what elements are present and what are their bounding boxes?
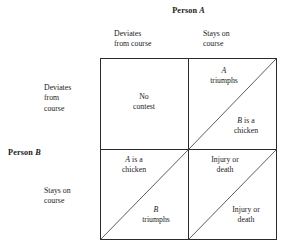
cell-0-0-text: No contest: [100, 92, 188, 113]
cell-0-1-upper-text: A triumphs: [193, 66, 255, 87]
cell-1-1-lower-text: Injury or death: [216, 205, 276, 226]
cell-1-0-upper-text: A is a chicken: [104, 155, 164, 176]
row-header-stays: Stays on course: [44, 186, 96, 207]
column-header-stays: Stays on course: [203, 29, 277, 50]
cell-1-1-upper-text: Injury or death: [194, 155, 256, 176]
cell-1-0-lower-text: B triumphs: [127, 205, 185, 226]
cell-0-1-upper-var: A: [222, 66, 227, 75]
column-header-deviates: Deviates from course: [114, 29, 186, 50]
row-player-title: Person B: [8, 148, 94, 157]
column-player-title-prefix: Person: [172, 6, 197, 15]
column-player-title: Person A: [100, 6, 277, 15]
row-player-title-prefix: Person: [8, 148, 33, 157]
cell-0-1-lower-text: B is a chicken: [216, 116, 276, 137]
cell-1-0-lower-var: B: [154, 205, 159, 214]
column-player-title-var: A: [197, 6, 205, 15]
row-header-deviates: Deviates from course: [44, 83, 96, 114]
payoff-matrix-figure: Person A Person B Deviates from course S…: [0, 0, 285, 248]
row-player-title-var: B: [33, 148, 41, 157]
cell-1-0-lower-label: triumphs: [142, 215, 170, 224]
cell-0-1-upper-label: triumphs: [210, 76, 238, 85]
